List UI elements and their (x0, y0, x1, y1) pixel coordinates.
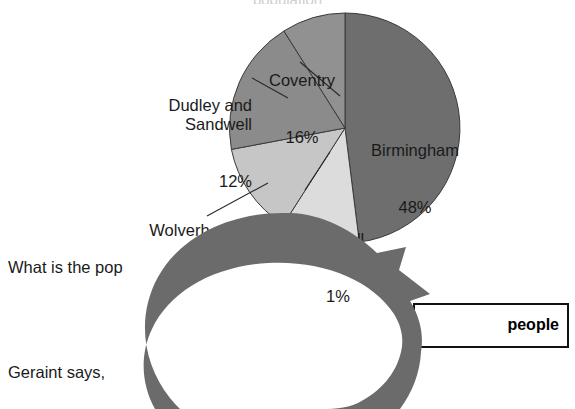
pie-label-walsall-text: Walsall (301, 230, 375, 249)
pie-label-wolverhampton: Wolverh (131, 202, 251, 259)
question-population-text: What is the pop (8, 258, 123, 277)
pie-label-coventry: Coventry 16% (249, 33, 355, 185)
pie-label-wolverhampton-text: Wolverh (149, 221, 209, 239)
handdrawn-ring-lower-arc (318, 352, 421, 409)
question-geraint-text: Geraint says, (8, 363, 105, 382)
answer-input-box[interactable]: people (413, 303, 569, 348)
top-cut-text: population (0, 0, 575, 4)
pie-label-coventry-percent: 16% (249, 128, 355, 147)
pie-label-walsall: Walsall 1% (301, 192, 375, 344)
worksheet-page: population Dudley and Sandwell 12% Coven… (0, 0, 575, 409)
pie-label-walsall-percent: 1% (301, 287, 375, 306)
pie-label-dudley-sandwell-text: Dudley and Sandwell (124, 96, 252, 134)
answer-units-label: people (507, 316, 559, 334)
pie-label-birmingham-text: Birmingham (352, 141, 478, 160)
pie-label-coventry-text: Coventry (249, 71, 355, 90)
pie-label-dudley-sandwell-percent: 12% (124, 172, 252, 191)
